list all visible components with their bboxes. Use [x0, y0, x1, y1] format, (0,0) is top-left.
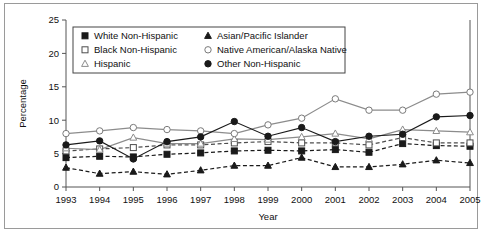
data-point: [231, 130, 237, 136]
line-chart: 0510152025199319941995199619971998199920…: [0, 0, 487, 238]
data-point: [399, 131, 405, 137]
series-markers-4: [63, 154, 474, 177]
legend-label: Hispanic: [94, 58, 131, 69]
data-point: [467, 140, 473, 146]
figure-container: 0510152025199319941995199619971998199920…: [0, 0, 487, 238]
data-point: [130, 145, 136, 151]
data-point: [467, 89, 473, 95]
x-tick-label: 2004: [426, 194, 447, 205]
data-point: [197, 134, 203, 140]
data-point: [399, 161, 406, 167]
data-point: [366, 149, 372, 155]
data-point: [298, 124, 304, 130]
y-axis-title: Percentage: [17, 79, 28, 128]
legend-marker: [205, 61, 211, 67]
x-tick-label: 2001: [325, 194, 346, 205]
data-point: [63, 155, 69, 161]
data-point: [366, 149, 372, 155]
legend-marker: [205, 47, 211, 53]
data-point: [164, 126, 170, 132]
data-point: [332, 138, 338, 144]
y-tick-label: 0: [54, 181, 59, 192]
data-point: [298, 154, 305, 160]
data-point: [130, 168, 137, 174]
data-point: [63, 142, 69, 148]
data-point: [332, 96, 338, 102]
data-point: [197, 134, 203, 140]
data-point: [332, 163, 339, 169]
data-point: [231, 148, 237, 154]
data-point: [467, 112, 473, 118]
y-tick-label: 20: [48, 48, 59, 59]
x-tick-label: 2002: [358, 194, 379, 205]
data-point: [467, 112, 473, 118]
data-point: [332, 130, 339, 136]
data-point: [164, 138, 170, 144]
data-point: [265, 122, 271, 128]
data-point: [366, 142, 372, 148]
data-point: [332, 147, 338, 153]
x-tick-label: 1993: [55, 194, 76, 205]
data-point: [399, 107, 405, 113]
data-point: [433, 114, 439, 120]
data-point: [197, 128, 203, 134]
data-point: [231, 118, 237, 124]
data-point: [231, 118, 237, 124]
data-point: [265, 147, 271, 153]
data-point: [298, 115, 304, 121]
x-tick-label: 2003: [392, 194, 413, 205]
legend-marker: [205, 47, 211, 53]
data-point: [265, 122, 271, 128]
data-point: [97, 153, 103, 159]
legend-marker: [82, 47, 88, 53]
data-point: [433, 140, 439, 146]
legend-label: Asian/Pacific Islander: [217, 30, 308, 41]
data-point: [198, 150, 204, 156]
data-point: [265, 133, 271, 139]
x-axis-title: Year: [258, 211, 277, 222]
data-point: [63, 164, 70, 170]
data-point: [96, 128, 102, 134]
data-point: [63, 142, 69, 148]
data-point: [130, 168, 137, 174]
data-point: [164, 126, 170, 132]
y-tick-label: 5: [54, 148, 59, 159]
data-point: [299, 140, 305, 146]
data-point: [164, 151, 170, 157]
data-point: [366, 133, 372, 139]
data-point: [400, 141, 406, 147]
data-point: [130, 124, 136, 130]
x-tick-label: 2000: [291, 194, 312, 205]
data-point: [467, 89, 473, 95]
legend-label: Native American/Alaska Native: [217, 44, 347, 55]
legend-label: White Non-Hispanic: [94, 30, 178, 41]
legend-label: Other Non-Hispanic: [217, 58, 301, 69]
data-point: [197, 167, 204, 173]
data-point: [467, 140, 473, 146]
data-point: [433, 140, 439, 146]
data-point: [197, 128, 203, 134]
legend-marker: [205, 61, 211, 67]
data-point: [299, 140, 305, 146]
data-point: [197, 167, 204, 173]
y-tick-label: 10: [48, 115, 59, 126]
x-tick-label: 1999: [257, 194, 278, 205]
data-point: [433, 157, 440, 163]
data-point: [63, 130, 69, 136]
data-point: [332, 130, 339, 136]
legend-marker: [82, 47, 88, 53]
data-point: [198, 150, 204, 156]
data-point: [265, 133, 271, 139]
data-point: [433, 157, 440, 163]
data-point: [298, 115, 304, 121]
legend-marker: [82, 33, 88, 39]
data-point: [366, 142, 372, 148]
data-point: [164, 151, 170, 157]
legend-label: Black Non-Hispanic: [94, 44, 177, 55]
data-point: [130, 156, 136, 162]
data-point: [332, 147, 338, 153]
data-point: [332, 96, 338, 102]
data-point: [366, 107, 372, 113]
data-point: [433, 91, 439, 97]
data-point: [298, 154, 305, 160]
